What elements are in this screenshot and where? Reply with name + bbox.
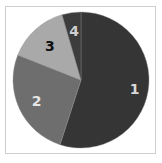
slice-label-4: 4 bbox=[69, 23, 79, 39]
slice-label-3: 3 bbox=[45, 38, 55, 54]
slice-label-2: 2 bbox=[32, 93, 42, 109]
pie-chart: 1234 bbox=[0, 0, 162, 163]
slice-label-1: 1 bbox=[130, 81, 140, 97]
